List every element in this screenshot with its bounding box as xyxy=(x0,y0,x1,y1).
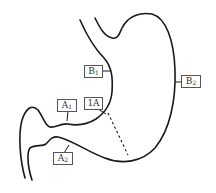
leader-a1 xyxy=(67,111,68,121)
label-b1-text: B xyxy=(88,66,95,76)
angular-incisura-dashed-line xyxy=(108,113,128,155)
label-a1-sub: 1 xyxy=(68,103,72,110)
label-b2-sub: 2 xyxy=(192,79,196,86)
label-b1: B1 xyxy=(84,65,103,78)
label-a2: A2 xyxy=(53,152,73,165)
label-1a-text: 1A xyxy=(87,98,99,108)
label-b1-sub: 1 xyxy=(95,69,99,76)
label-a2-sub: 2 xyxy=(64,156,68,163)
label-a1: A1 xyxy=(57,99,77,112)
stomach-diagram xyxy=(0,0,216,193)
label-1a: 1A xyxy=(84,97,103,110)
label-b2: B2 xyxy=(181,75,201,88)
